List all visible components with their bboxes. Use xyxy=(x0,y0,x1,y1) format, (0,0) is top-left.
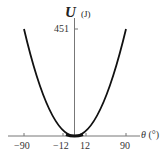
x-axis-label: θ (°) xyxy=(141,129,159,140)
x-tick-label-12: 12 xyxy=(80,140,90,151)
x-tick-label-90: 90 xyxy=(120,140,130,151)
y-unit: (J) xyxy=(81,9,91,19)
x-symbol: θ xyxy=(141,129,146,140)
y-symbol: U xyxy=(65,4,76,20)
chart-canvas xyxy=(0,0,164,157)
minimum-highlight xyxy=(66,135,83,137)
y-tick-label-451: 451 xyxy=(54,23,69,34)
y-axis-label: U (J) xyxy=(65,2,90,21)
x-tick-label-neg12: −12 xyxy=(53,140,69,151)
x-unit: (°) xyxy=(148,129,159,140)
x-tick-label-neg90: −90 xyxy=(14,140,30,151)
